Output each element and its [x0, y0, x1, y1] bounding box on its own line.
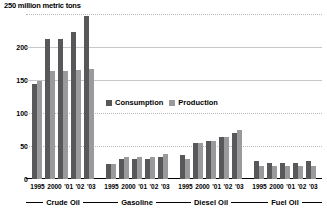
- y-tick-150: 150: [6, 77, 28, 84]
- category-fuel-oil: Fuel Oil: [248, 192, 322, 212]
- legend-label-production: Production: [178, 98, 218, 107]
- bar-production: [163, 154, 168, 179]
- category-rule-right: [156, 202, 174, 203]
- category-rule-right: [302, 202, 322, 203]
- category-diesel-oil: Diesel Oil: [174, 192, 248, 212]
- category-label: Fuel Oil: [271, 198, 299, 207]
- y-tick-100: 100: [6, 110, 28, 117]
- bar-production: [272, 166, 277, 179]
- bar-group-fuel-oil: [248, 14, 322, 179]
- bar-chart: 250 million metric tons 200 150 100 50 0…: [0, 0, 327, 220]
- category-rule-left: [26, 202, 43, 203]
- bar-production: [298, 166, 303, 179]
- legend-swatch-production-icon: [169, 100, 175, 106]
- category-rule-right: [83, 202, 100, 203]
- bar-production: [37, 81, 42, 179]
- bar-pair: [232, 14, 243, 179]
- x-tick-label: '01: [64, 183, 73, 190]
- x-tick-label: '03: [87, 183, 96, 190]
- bar-production: [259, 166, 264, 179]
- bar-production: [185, 159, 190, 179]
- category-rule-left: [174, 202, 191, 203]
- x-tick-group: 19952000'01'02'03: [100, 181, 174, 192]
- bar-production: [211, 141, 216, 179]
- x-tick-label: 1995: [252, 183, 266, 190]
- x-tick-label: 2000: [47, 183, 61, 190]
- category-label: Crude Oil: [46, 198, 80, 207]
- bar-production: [124, 157, 129, 179]
- bar-pair: [219, 14, 230, 179]
- x-tick-label: 2000: [269, 183, 283, 190]
- bar-pair: [44, 14, 55, 179]
- x-tick-label: '02: [76, 183, 85, 190]
- bar-pair: [293, 14, 304, 179]
- x-tick-label: 1995: [104, 183, 118, 190]
- bar-pair: [306, 14, 317, 179]
- x-tick-label: '01: [138, 183, 147, 190]
- category-crude-oil: Crude Oil: [26, 192, 100, 212]
- x-tick-group: 19952000'01'02'03: [248, 181, 322, 192]
- bar-production: [63, 71, 68, 179]
- bar-production: [137, 157, 142, 179]
- x-tick-label: '01: [286, 183, 295, 190]
- bar-production: [76, 70, 81, 179]
- legend-item-production: Production: [169, 98, 218, 107]
- bar-pair: [266, 14, 277, 179]
- x-tick-label: '03: [309, 183, 318, 190]
- bar-production: [311, 166, 316, 179]
- x-axis-tick-labels: 19952000'01'02'0319952000'01'02'03199520…: [26, 181, 322, 192]
- x-tick-label: '02: [224, 183, 233, 190]
- bar-production: [198, 143, 203, 179]
- y-tick-200: 200: [6, 44, 28, 51]
- x-tick-group: 19952000'01'02'03: [174, 181, 248, 192]
- legend-item-consumption: Consumption: [106, 98, 163, 107]
- bar-pair: [84, 14, 95, 179]
- bar-pair: [31, 14, 42, 179]
- bar-production: [285, 166, 290, 179]
- legend-swatch-consumption-icon: [106, 100, 112, 106]
- x-tick-label: 1995: [178, 183, 192, 190]
- chart-legend: Consumption Production: [104, 97, 220, 108]
- bar-group-crude-oil: [26, 14, 100, 179]
- x-tick-label: '02: [150, 183, 159, 190]
- x-tick-label: '03: [161, 183, 170, 190]
- category-rule-left: [100, 202, 118, 203]
- bar-production: [111, 164, 116, 179]
- bar-pair: [71, 14, 82, 179]
- x-tick-label: 2000: [195, 183, 209, 190]
- legend-label-consumption: Consumption: [115, 98, 163, 107]
- bar-production: [224, 137, 229, 179]
- bar-pair: [57, 14, 68, 179]
- y-tick-0: 0: [6, 176, 28, 183]
- bar-pair: [253, 14, 264, 179]
- bar-production: [89, 69, 94, 179]
- bar-production: [237, 130, 242, 179]
- x-tick-label: '02: [298, 183, 307, 190]
- x-tick-label: 2000: [121, 183, 135, 190]
- category-rule-right: [231, 202, 248, 203]
- category-labels: Crude OilGasolineDiesel OilFuel Oil: [26, 192, 322, 212]
- y-tick-50: 50: [6, 143, 28, 150]
- chart-axis-title: 250 million metric tons: [4, 1, 81, 10]
- x-tick-label: '03: [235, 183, 244, 190]
- x-tick-group: 19952000'01'02'03: [26, 181, 100, 192]
- category-gasoline: Gasoline: [100, 192, 174, 212]
- x-tick-label: '01: [212, 183, 221, 190]
- bar-production: [150, 157, 155, 179]
- x-tick-label: 1995: [30, 183, 44, 190]
- category-rule-left: [248, 202, 268, 203]
- category-label: Gasoline: [121, 198, 153, 207]
- category-label: Diesel Oil: [194, 198, 228, 207]
- bar-production: [50, 71, 55, 179]
- bar-pair: [279, 14, 290, 179]
